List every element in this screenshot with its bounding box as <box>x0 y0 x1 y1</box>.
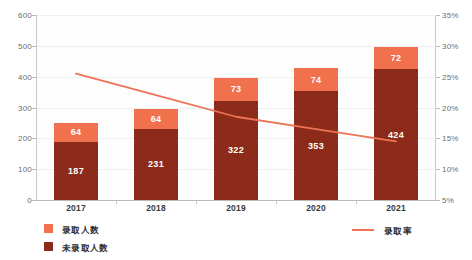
y-axis-left-tickmark <box>32 15 36 16</box>
x-axis-tickmark <box>276 200 277 204</box>
x-axis-tick-label: 2018 <box>126 203 186 213</box>
legend-label-not-accepted: 未录取人数 <box>62 241 109 253</box>
x-axis-line <box>36 200 436 201</box>
y-axis-left-tickmark <box>32 138 36 139</box>
x-axis-tick-label: 2017 <box>46 203 106 213</box>
y-axis-right-tick-label: 20% <box>442 103 472 112</box>
bar-segment-not-accepted[interactable]: 424 <box>374 69 418 200</box>
legend-rate[interactable]: 录取率 <box>352 224 412 236</box>
y-axis-left-tick-label: 300 <box>0 103 32 112</box>
y-axis-left-tick-label: 500 <box>0 41 32 50</box>
bar-value-label: 72 <box>391 53 402 63</box>
x-axis-tick-label: 2020 <box>286 203 346 213</box>
y-axis-right-tickmark <box>436 46 440 47</box>
y-axis-right-tick-label: 5% <box>442 196 472 205</box>
y-axis-left-tick-label: 200 <box>0 134 32 143</box>
y-axis-left-tick-label: 600 <box>0 11 32 20</box>
y-axis-right-tickmark <box>436 169 440 170</box>
chart-container: 0100200300400500600 5%10%15%20%25%30%35%… <box>0 0 472 260</box>
legend-line-rate-icon <box>352 229 374 231</box>
y-axis-left-tick-label: 400 <box>0 72 32 81</box>
bar-group[interactable]: 18764 <box>54 15 98 200</box>
bar-segment-accepted[interactable]: 72 <box>374 47 418 69</box>
legend-label-rate: 录取率 <box>384 224 412 236</box>
y-axis-right-tickmark <box>436 77 440 78</box>
y-axis-left-tickmark <box>32 77 36 78</box>
legend-swatch-not-accepted-icon <box>44 242 53 251</box>
y-axis-right-tick-label: 15% <box>442 134 472 143</box>
bar-segment-accepted[interactable]: 64 <box>54 123 98 143</box>
legend-bars: 录取人数 未录取人数 <box>44 221 109 257</box>
y-axis-right-tickmark <box>436 108 440 109</box>
legend-label-accepted: 录取人数 <box>62 223 99 235</box>
bar-segment-accepted[interactable]: 64 <box>134 109 178 129</box>
bar-value-label: 64 <box>71 127 82 137</box>
bar-value-label: 424 <box>388 130 404 140</box>
bar-group[interactable]: 32273 <box>214 15 258 200</box>
x-axis-tickmark <box>356 200 357 204</box>
y-axis-left-tickmark <box>32 108 36 109</box>
y-axis-right-tick-label: 30% <box>442 41 472 50</box>
bar-segment-not-accepted[interactable]: 187 <box>54 142 98 200</box>
y-axis-right-tickmark <box>436 15 440 16</box>
y-axis-left-tickmark <box>32 46 36 47</box>
y-axis-right-tick-label: 35% <box>442 11 472 20</box>
bar-group[interactable]: 35374 <box>294 15 338 200</box>
y-axis-right-tick-label: 10% <box>442 165 472 174</box>
x-axis-tickmark <box>196 200 197 204</box>
y-axis-left-tick-label: 0 <box>0 196 32 205</box>
bar-segment-not-accepted[interactable]: 231 <box>134 129 178 200</box>
x-axis-tickmark <box>116 200 117 204</box>
x-axis-tick-label: 2019 <box>206 203 266 213</box>
bar-segment-accepted[interactable]: 73 <box>214 78 258 101</box>
bar-value-label: 353 <box>308 141 324 151</box>
bar-group[interactable]: 42472 <box>374 15 418 200</box>
y-axis-right-tickmark <box>436 138 440 139</box>
y-axis-right-tick-label: 25% <box>442 72 472 81</box>
bar-value-label: 74 <box>311 75 322 85</box>
y-axis-left-tick-label: 100 <box>0 165 32 174</box>
legend-swatch-accepted-icon <box>44 224 53 233</box>
bar-segment-not-accepted[interactable]: 322 <box>214 101 258 200</box>
bar-value-label: 73 <box>231 84 242 94</box>
legend-item-not-accepted[interactable]: 未录取人数 <box>44 239 109 254</box>
bar-value-label: 187 <box>68 166 84 176</box>
x-axis-tick-label: 2021 <box>366 203 426 213</box>
bar-segment-accepted[interactable]: 74 <box>294 68 338 91</box>
legend-item-accepted[interactable]: 录取人数 <box>44 221 109 236</box>
bar-segment-not-accepted[interactable]: 353 <box>294 91 338 200</box>
bar-value-label: 64 <box>151 114 162 124</box>
bar-group[interactable]: 23164 <box>134 15 178 200</box>
bar-value-label: 231 <box>148 159 164 169</box>
bar-value-label: 322 <box>228 145 244 155</box>
y-axis-right-tickmark <box>436 200 440 201</box>
y-axis-left-tickmark <box>32 200 36 201</box>
y-axis-left-tickmark <box>32 169 36 170</box>
